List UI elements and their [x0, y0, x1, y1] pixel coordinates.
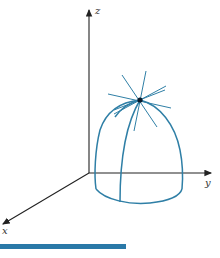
- x-axis: [3, 173, 89, 224]
- y-axis-label: y: [204, 177, 211, 188]
- accent-bar: [0, 244, 126, 249]
- surface-diagram: z y x: [0, 0, 220, 258]
- axes: z y x: [2, 5, 211, 236]
- x-axis-label: x: [2, 225, 8, 236]
- dome-right-edge: [140, 100, 183, 189]
- dome-surface: [95, 100, 183, 203]
- diagram-canvas: z y x: [0, 0, 220, 258]
- surface-point: [137, 97, 142, 102]
- z-axis-label: z: [94, 5, 101, 16]
- dome-base: [96, 189, 182, 203]
